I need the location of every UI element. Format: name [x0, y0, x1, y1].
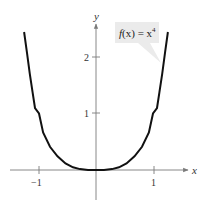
function-label: f(x) = x4: [119, 26, 156, 40]
function-label-callout: f(x) = x4: [115, 22, 161, 63]
chart-canvas: −1 1 1 2 x y f(x) = x4: [0, 0, 210, 206]
y-tick-label-1: 1: [84, 108, 89, 119]
x-tick-label-neg1: −1: [31, 177, 42, 188]
y-tick-label-2: 2: [84, 52, 89, 63]
y-axis-label: y: [93, 10, 99, 22]
x-axis-label: x: [191, 164, 197, 176]
x-tick-label-1: 1: [151, 177, 156, 188]
